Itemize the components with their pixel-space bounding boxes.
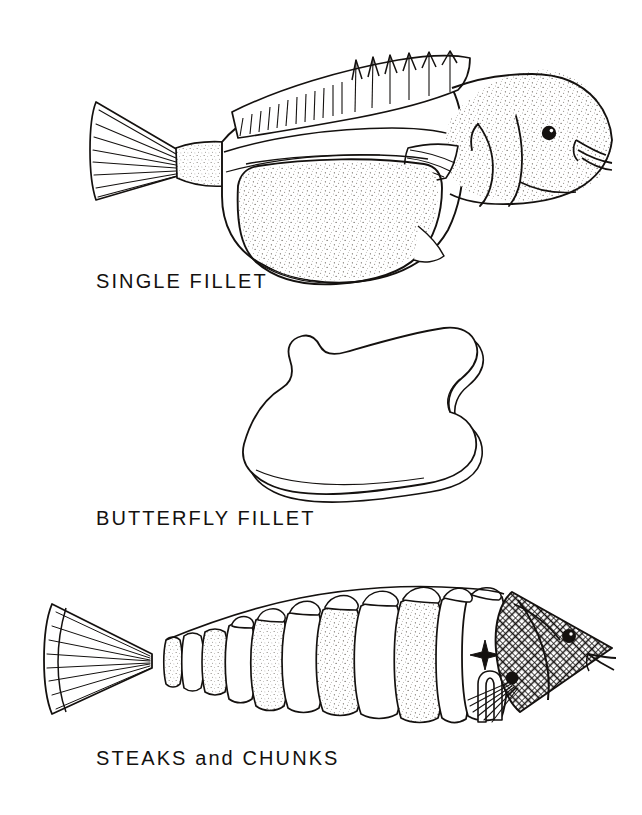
illustration-canvas: SINGLE FILLET BUTTERFLY FILLET: [0, 0, 642, 815]
eye-icon: [542, 126, 556, 140]
eye-icon: [562, 629, 576, 643]
caudal-peduncle: [176, 142, 226, 186]
label-single-fillet: SINGLE FILLET: [96, 270, 268, 292]
label-steaks-and-chunks: STEAKS and CHUNKS: [96, 747, 340, 769]
label-butterfly-fillet: BUTTERFLY FILLET: [96, 507, 316, 529]
fish-cuts-figure: SINGLE FILLET BUTTERFLY FILLET: [0, 0, 642, 815]
